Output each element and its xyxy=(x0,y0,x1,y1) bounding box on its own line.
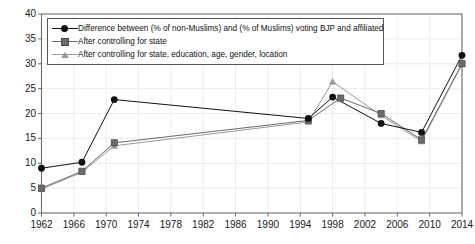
x-axis-tick-label: 1982 xyxy=(186,219,220,230)
x-axis-tick-label: 1966 xyxy=(57,219,91,230)
legend-label: Difference between (% of non-Muslims) an… xyxy=(78,22,383,35)
legend-marker-circle-icon xyxy=(52,22,78,35)
data-point xyxy=(329,94,336,101)
data-point xyxy=(38,165,45,172)
data-point xyxy=(79,168,85,174)
x-axis-tick-label: 1970 xyxy=(89,219,123,230)
legend-item: After controlling for state xyxy=(52,35,379,48)
y-axis-tick-label: 15 xyxy=(8,132,36,143)
chart-container: 0510152025303540 19621966197019741978198… xyxy=(0,0,475,244)
data-point xyxy=(305,115,312,122)
x-axis-tick-label: 1962 xyxy=(25,219,59,230)
y-axis-tick-label: 40 xyxy=(8,8,36,19)
x-axis-tick-label: 2002 xyxy=(348,219,382,230)
legend-label: After controlling for state, education, … xyxy=(78,48,287,61)
y-axis-tick-label: 0 xyxy=(8,207,36,218)
legend-marker-square-icon xyxy=(52,35,78,48)
data-point xyxy=(111,96,118,103)
chart-legend: Difference between (% of non-Muslims) an… xyxy=(47,18,384,65)
data-point xyxy=(418,137,424,143)
y-axis-tick-label: 30 xyxy=(8,58,36,69)
y-axis-tick-label: 5 xyxy=(8,182,36,193)
series-line xyxy=(42,64,463,188)
y-axis-tick-label: 10 xyxy=(8,157,36,168)
data-point xyxy=(38,185,44,191)
legend-item: Difference between (% of non-Muslims) an… xyxy=(52,22,379,35)
x-axis-tick-label: 2006 xyxy=(380,219,414,230)
x-axis-tick-label: 1974 xyxy=(122,219,156,230)
x-axis-tick-label: 1998 xyxy=(316,219,350,230)
data-point xyxy=(378,120,385,127)
data-point xyxy=(378,110,384,116)
x-axis-tick-label: 2014 xyxy=(445,219,475,230)
x-axis-tick-label: 1990 xyxy=(251,219,285,230)
y-axis-tick-label: 25 xyxy=(8,83,36,94)
data-point xyxy=(459,52,466,59)
data-point xyxy=(459,61,465,67)
legend-label: After controlling for state xyxy=(78,35,167,48)
data-point xyxy=(111,140,117,146)
data-point xyxy=(79,159,86,166)
data-point xyxy=(418,129,425,136)
data-point xyxy=(329,78,336,85)
y-axis-tick-label: 20 xyxy=(8,108,36,119)
x-axis-tick-label: 1978 xyxy=(154,219,188,230)
x-axis-tick-label: 2010 xyxy=(413,219,447,230)
legend-item: After controlling for state, education, … xyxy=(52,48,379,61)
x-axis-tick-label: 1986 xyxy=(219,219,253,230)
x-axis-tick-label: 1994 xyxy=(283,219,317,230)
legend-marker-triangle-icon xyxy=(52,48,78,61)
data-point xyxy=(338,95,344,101)
y-axis-tick-label: 35 xyxy=(8,33,36,44)
